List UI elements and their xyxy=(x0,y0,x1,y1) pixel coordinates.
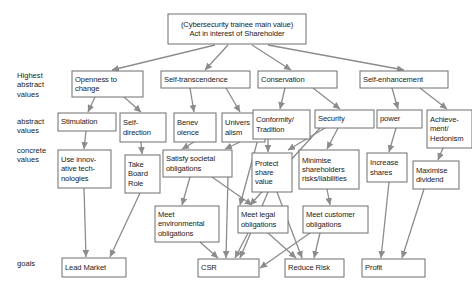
node-box-root xyxy=(168,14,306,44)
edge-benevolence-to-satisfy-societal-obligations xyxy=(182,142,194,149)
node-box-self-direction xyxy=(120,113,166,142)
node-box-stimulation xyxy=(58,113,116,131)
node-box-satisfy-societal-obligations xyxy=(163,150,232,177)
node-box-self-enhancement xyxy=(360,71,448,88)
node-box-increase-shares xyxy=(367,153,407,182)
node-box-power xyxy=(377,110,422,128)
edge-power-to-increase-shares xyxy=(389,128,396,152)
edge-root-to-openness-to-change xyxy=(112,45,215,70)
edge-self-enhancement-to-achievement-hedonism xyxy=(420,88,447,109)
edge-conservation-to-security xyxy=(313,88,340,109)
edge-root-to-self-transcendence xyxy=(205,45,228,70)
node-box-reduce-risk xyxy=(285,259,344,277)
edge-maximise-dividend-to-profit xyxy=(402,189,424,258)
node-box-security xyxy=(315,110,374,128)
edge-satisfy-societal-obligations-to-csr xyxy=(226,177,228,258)
node-box-openness-to-change xyxy=(72,71,143,97)
node-box-conformity-tradition xyxy=(253,110,310,139)
row-highest-abstract-values: Highest abstract values xyxy=(17,71,44,99)
row-abstract-values: abstract values xyxy=(17,117,44,136)
edge-openness-to-change-to-self-direction xyxy=(124,97,141,112)
row-goals: goals xyxy=(17,259,35,268)
edge-universalism-to-satisfy-societal-obligations xyxy=(225,142,240,149)
node-box-minimise-shareholders-risks xyxy=(299,150,359,189)
edge-self-transcendence-to-universalism xyxy=(226,88,240,112)
edge-security-to-minimise-shareholders-risks xyxy=(327,128,338,149)
edge-satisfy-societal-obligations-to-meet-environmental-obligations xyxy=(182,177,190,205)
edge-minimise-shareholders-risks-to-meet-customer-obligations xyxy=(327,189,330,205)
node-box-meet-legal-obligations xyxy=(238,206,288,233)
edge-self-direction-to-take-board-role xyxy=(141,142,142,154)
edge-root-to-self-enhancement xyxy=(268,45,404,70)
node-box-use-innovative-technologies xyxy=(58,150,111,188)
node-box-meet-customer-obligations xyxy=(303,206,368,233)
edge-conservation-to-conformity-tradition xyxy=(280,88,285,109)
edge-increase-shares-to-profit xyxy=(381,182,389,258)
edge-use-innovative-technologies-to-lead-market xyxy=(84,188,86,257)
row-concrete-values: concrete values xyxy=(17,146,46,165)
edge-meet-customer-obligations-to-reduce-risk xyxy=(314,233,320,258)
diagram-canvas xyxy=(0,0,472,291)
node-box-meet-environmental-obligations xyxy=(155,206,219,242)
node-box-protect-share-value xyxy=(252,153,292,192)
edge-self-transcendence-to-benevolence xyxy=(190,88,194,112)
edge-achievement-hedonism-to-maximise-dividend xyxy=(438,148,443,160)
value-hierarchy-diagram: (Cybersecurity trainee main value) Act i… xyxy=(0,0,472,291)
node-box-lead-market xyxy=(62,258,126,277)
node-box-benevolence xyxy=(174,113,216,142)
node-box-self-transcendence xyxy=(161,71,250,88)
node-box-conservation xyxy=(258,71,337,88)
edge-meet-environmental-obligations-to-csr xyxy=(200,242,218,258)
node-box-csr xyxy=(198,259,259,277)
node-box-achievement-hedonism xyxy=(427,110,472,148)
node-box-take-board-role xyxy=(125,155,160,193)
edge-openness-to-change-to-stimulation xyxy=(88,97,95,112)
node-box-maximise-dividend xyxy=(413,161,459,189)
edge-self-enhancement-to-power xyxy=(392,88,398,109)
edge-stimulation-to-use-innovative-technologies xyxy=(84,131,86,149)
edge-take-board-role-to-lead-market xyxy=(110,193,140,257)
node-box-profit xyxy=(362,259,425,277)
